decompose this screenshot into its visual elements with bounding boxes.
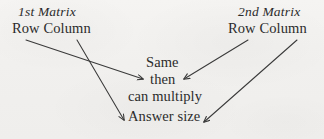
arrow-first-row-to-answer-size [77, 40, 124, 120]
condition-same-label: Same [146, 55, 179, 70]
matrix-multiplication-diagram: 1st Matrix Row Column 2nd Matrix Row Col… [0, 0, 324, 139]
arrow-second-row-to-then [184, 40, 248, 79]
condition-can-multiply-label: can multiply [128, 89, 202, 104]
arrow-first-column-to-then [26, 40, 143, 79]
first-matrix-title: 1st Matrix [18, 5, 76, 19]
condition-then-label: then [150, 72, 175, 87]
first-matrix-dimensions-label: Row Column [12, 21, 91, 36]
answer-size-label: Answer size [128, 109, 200, 124]
arrow-second-column-to-answer-size [204, 40, 297, 122]
second-matrix-title: 2nd Matrix [238, 5, 300, 19]
second-matrix-dimensions-label: Row Column [228, 21, 307, 36]
